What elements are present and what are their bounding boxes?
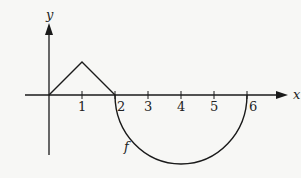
tick-label-5: 5 [210,99,218,114]
x-axis-label: x [293,87,301,102]
function-label: f [123,139,131,154]
tick-label-6: 6 [249,99,257,114]
tick-label-2: 2 [117,99,125,114]
graph-figure: x y 1 2 3 4 5 6 f [0,0,301,178]
x-axis-arrow-icon [276,91,288,99]
tick-label-1: 1 [78,99,86,114]
triangle-segment [49,62,115,95]
y-axis-arrow-icon [45,23,53,35]
tick-label-3: 3 [144,99,152,114]
tick-label-4: 4 [177,99,185,114]
y-axis-label: y [45,7,54,22]
